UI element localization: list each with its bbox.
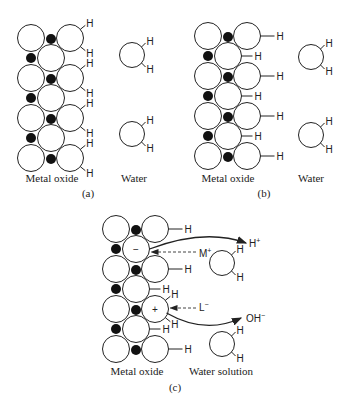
hydrogen-label: H	[277, 111, 284, 122]
metal-atom	[26, 53, 36, 63]
hydrogen-label: H	[171, 319, 178, 330]
hydrogen-label: H	[237, 272, 244, 283]
hydrogen-label: H	[86, 138, 93, 149]
panel-caption: (a)	[82, 187, 95, 200]
oxygen-atom	[123, 316, 150, 343]
panel-a: HHHHHHHHHHHHMetal oxideWater(a)	[18, 18, 154, 200]
oxygen-atom	[57, 25, 84, 52]
metal-cation-label: M+	[199, 247, 211, 259]
oxygen-atom	[195, 143, 222, 170]
water-oxygen	[120, 122, 145, 147]
oxygen-atom	[195, 23, 222, 50]
metal-atom	[46, 114, 56, 124]
water-molecule: HH	[299, 116, 333, 155]
hydrogen-label: H	[237, 353, 244, 364]
hydrogen-label: H	[326, 66, 333, 77]
oxygen-atom	[103, 256, 130, 283]
hydrogen-label: H	[147, 64, 154, 75]
metal-atom	[203, 51, 213, 61]
hydrogen-label: H	[147, 115, 154, 126]
hydrogen-label: H	[255, 51, 262, 62]
hydrogen-label: H	[86, 128, 93, 139]
hydrogen-label: H	[163, 324, 170, 335]
hydrogen-label: H	[185, 264, 192, 275]
oxygen-atom	[18, 25, 45, 52]
oxygen-atom	[38, 45, 65, 72]
water-label: Water	[298, 172, 324, 184]
metal-atom	[223, 152, 233, 162]
metal-atom	[111, 324, 121, 334]
oxygen-atom	[195, 103, 222, 130]
proton-ion-label: H+	[249, 237, 260, 249]
metal-atom	[223, 112, 233, 122]
oxygen-atom	[215, 123, 242, 150]
hydrogen-label: H	[326, 144, 333, 155]
water-oxygen	[299, 45, 324, 70]
hydrogen-label: H	[277, 151, 284, 162]
metal-atom	[26, 133, 36, 143]
hydrogen-label: H	[237, 244, 244, 255]
oxygen-atom	[18, 65, 45, 92]
water-molecule: HH	[120, 115, 154, 154]
water-label: Water	[121, 172, 147, 184]
hydrogen-label: H	[277, 71, 284, 82]
oxygen-atom	[18, 145, 45, 172]
oxygen-atom	[57, 105, 84, 132]
water-label: Water solution	[189, 365, 254, 377]
oxygen-atom	[234, 143, 261, 170]
hydrogen-label: H	[86, 18, 93, 29]
hydrogen-label: H	[86, 168, 93, 179]
water-molecule: HH	[299, 38, 333, 77]
metal-atom	[111, 284, 121, 294]
hydrogen-label: H	[163, 284, 170, 295]
positive-charge: +	[152, 304, 158, 315]
panel-caption: (b)	[258, 187, 271, 200]
metal-atom	[26, 93, 36, 103]
panel-c: −HHHHH+HHH+M+L−OH−HHHHMetal oxideWater s…	[103, 216, 266, 395]
metal-atom	[223, 72, 233, 82]
oxygen-atom	[234, 23, 261, 50]
oxygen-atom	[103, 296, 130, 323]
oxygen-atom	[195, 63, 222, 90]
oxygen-atom	[215, 43, 242, 70]
metal-atom	[223, 32, 233, 42]
hydrogen-label: H	[185, 224, 192, 235]
oxygen-atom	[142, 256, 169, 283]
metal-oxide-label: Metal oxide	[26, 172, 79, 184]
metal-atom	[111, 244, 121, 254]
metal-oxide-label: Metal oxide	[111, 365, 164, 377]
hydrogen-label: H	[147, 143, 154, 154]
oxygen-atom	[57, 65, 84, 92]
water-molecule: HH	[120, 36, 154, 75]
metal-oxide-label: Metal oxide	[202, 172, 255, 184]
metal-atom	[203, 131, 213, 141]
hydrogen-label: H	[171, 289, 178, 300]
ligand-anion-label: L−	[199, 301, 209, 313]
panel-b: HHHHHHHHHHHMetal oxideWater(b)	[195, 23, 333, 201]
water-molecule: HH	[210, 244, 244, 283]
hydrogen-label: H	[326, 116, 333, 127]
metal-atom	[46, 74, 56, 84]
hydrogen-label: H	[147, 36, 154, 47]
oxygen-atom	[103, 216, 130, 243]
water-molecule: HH	[210, 325, 244, 364]
oxygen-atom	[38, 125, 65, 152]
water-oxygen	[299, 123, 324, 148]
hydrogen-label: H	[86, 58, 93, 69]
hydrogen-label: H	[86, 88, 93, 99]
panel-caption: (c)	[169, 381, 182, 394]
metal-oxide-water-interface-diagram: HHHHHHHHHHHHMetal oxideWater(a)HHHHHHHHH…	[0, 0, 364, 404]
oxygen-atom	[103, 336, 130, 363]
oxygen-atom	[234, 63, 261, 90]
metal-atom	[131, 265, 141, 275]
hydrogen-label: H	[326, 38, 333, 49]
oxygen-atom	[142, 336, 169, 363]
oxygen-atom	[215, 83, 242, 110]
oxygen-atom	[234, 103, 261, 130]
hydrogen-label: H	[86, 98, 93, 109]
hydrogen-label: H	[185, 344, 192, 355]
metal-atom	[46, 34, 56, 44]
water-oxygen	[210, 332, 235, 357]
water-oxygen	[210, 251, 235, 276]
oxygen-atom	[142, 216, 169, 243]
